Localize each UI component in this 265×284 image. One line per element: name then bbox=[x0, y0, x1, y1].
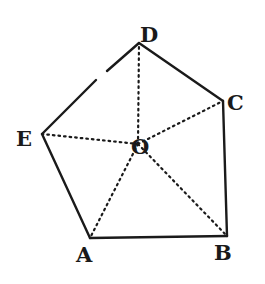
edge-EA bbox=[42, 134, 90, 238]
label-C: C bbox=[227, 90, 244, 115]
label-E: E bbox=[16, 126, 32, 151]
edge-BC bbox=[223, 101, 227, 236]
edge-AB bbox=[90, 236, 227, 238]
vertex-labels: ABCDEO bbox=[16, 22, 244, 267]
edge-DE-upper bbox=[107, 43, 139, 71]
label-A: A bbox=[75, 242, 93, 267]
label-O: O bbox=[131, 134, 149, 159]
radius-OB bbox=[138, 144, 227, 236]
edge-CD bbox=[139, 43, 223, 101]
label-B: B bbox=[214, 240, 232, 265]
radius-OE bbox=[42, 134, 138, 144]
edge-DE-lower bbox=[42, 80, 96, 134]
radius-OD bbox=[138, 43, 139, 144]
radius-OC bbox=[138, 101, 223, 144]
label-D: D bbox=[140, 22, 158, 47]
pentagon-diagram: ABCDEO bbox=[0, 0, 265, 284]
